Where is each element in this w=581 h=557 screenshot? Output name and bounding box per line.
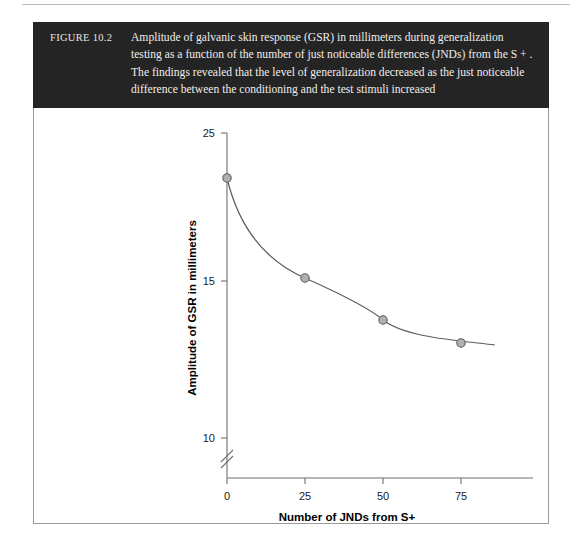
data-curve [227,178,495,345]
figure-caption-text: Amplitude of galvanic skin response (GSR… [131,29,535,99]
y-tick-label-15: 15 [203,275,215,287]
caption-inner: FIGURE 10.2 Amplitude of galvanic skin r… [33,22,549,108]
figure-page: FIGURE 10.2 Amplitude of galvanic skin r… [0,0,581,557]
figure-caption-banner: FIGURE 10.2 Amplitude of galvanic skin r… [33,22,549,108]
chart-plot-area: 25 15 10 0 25 50 75 Number of JNDs from … [33,108,549,524]
chart-svg: 25 15 10 0 25 50 75 Number of JNDs from … [33,108,549,524]
y-axis-title: Amplitude of GSR in millimeters [186,220,198,396]
y-tick-label-25: 25 [203,127,215,139]
x-tick-label-0: 0 [224,490,230,502]
data-point-25 [301,274,309,282]
page-top-rule [22,4,570,5]
data-point-50 [379,316,387,324]
y-tick-label-10: 10 [203,432,215,444]
x-tick-label-75: 75 [455,490,467,502]
x-tick-label-25: 25 [299,490,311,502]
data-point-0 [223,174,231,182]
x-axis-title: Number of JNDs from S+ [279,511,416,523]
x-tick-label-50: 50 [377,490,389,502]
figure-number-label: FIGURE 10.2 [50,32,112,43]
data-point-75 [457,339,465,347]
